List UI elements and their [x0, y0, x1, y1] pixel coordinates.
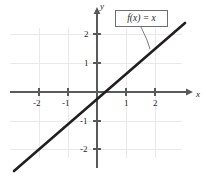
- x-axis-arrowhead: [186, 89, 193, 96]
- x-tick-label-1: 1: [124, 99, 129, 108]
- y-tick-label-2: 2: [84, 30, 89, 39]
- callout-leader-line: [141, 27, 150, 49]
- y-tick-label-1: 1: [84, 59, 89, 68]
- function-label-text: f(x) = x: [127, 14, 156, 24]
- y-axis-title: y: [100, 2, 104, 11]
- x-tick-label-minus1: -1: [62, 99, 70, 108]
- x-axis-title: x: [196, 90, 200, 99]
- y-tick-label-minus1: -1: [80, 117, 88, 126]
- x-tick-label-minus2: -2: [33, 99, 41, 108]
- y-tick-label-minus2: -2: [80, 145, 88, 154]
- x-tick-label-2: 2: [153, 99, 158, 108]
- graph-figure: -2 -1 1 2 2 1 -1 -2 x y f(x) = x: [0, 0, 206, 176]
- coordinate-plane: [0, 0, 206, 176]
- function-label-callout: f(x) = x: [115, 10, 168, 27]
